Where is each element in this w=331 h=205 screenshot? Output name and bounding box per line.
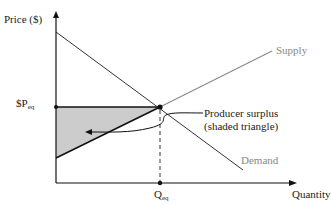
demand-label: Demand bbox=[241, 154, 278, 166]
x-axis-label: Quantity bbox=[292, 188, 331, 200]
equilibrium-price-label: $Peq bbox=[16, 97, 34, 113]
x-axis-arrow-icon bbox=[289, 180, 297, 186]
annotation-line-2: (shaded triangle) bbox=[204, 120, 278, 132]
demand-line bbox=[56, 32, 243, 170]
supply-line bbox=[160, 51, 272, 107]
y-axis-arrow-icon bbox=[53, 11, 59, 18]
supply-label: Supply bbox=[276, 44, 307, 56]
annotation-line-1: Producer surplus bbox=[204, 107, 278, 119]
quantity-axis-dot bbox=[158, 181, 162, 185]
equilibrium-quantity-label: Qeq bbox=[154, 188, 169, 204]
price-axis-dot bbox=[54, 105, 58, 109]
equilibrium-point bbox=[157, 104, 162, 109]
y-axis-label: Price ($) bbox=[4, 13, 42, 25]
